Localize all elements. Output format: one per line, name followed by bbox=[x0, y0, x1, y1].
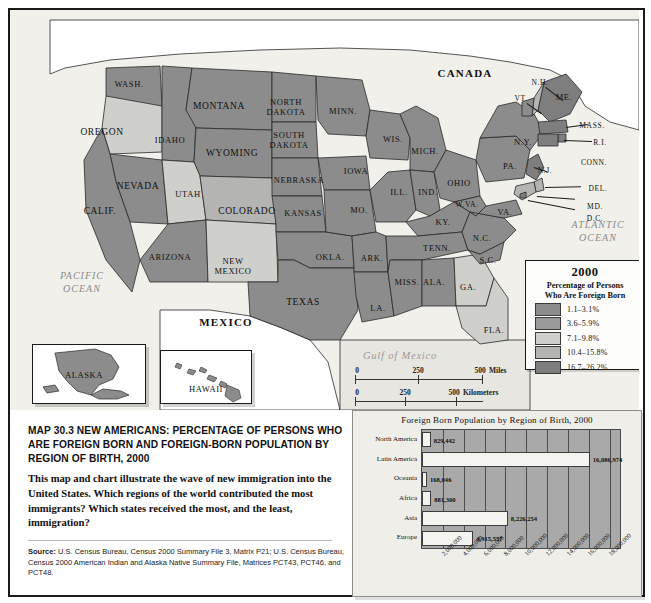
chart-bar bbox=[422, 452, 590, 467]
legend-entries: 1.1–3.1%3.6–5.9%7.1–9.8%10.4–15.8%16.7–2… bbox=[526, 303, 639, 374]
chart-bar-row: 8,226,254 bbox=[422, 511, 620, 526]
state-label-oregon: OREGON bbox=[80, 127, 123, 137]
legend-entry: 3.6–5.9% bbox=[535, 317, 639, 330]
state-label-conn: CONN. bbox=[581, 158, 607, 167]
legend-entry-label: 3.6–5.9% bbox=[567, 319, 599, 328]
state-label-ky: KY. bbox=[435, 217, 450, 227]
state-label-south-dakota: SOUTHDAKOTA bbox=[270, 130, 309, 150]
state-label-okla: OKLA. bbox=[316, 252, 345, 262]
state-label-d-c: D.C. bbox=[587, 214, 604, 223]
state-label-new-mexico: NEWMEXICO bbox=[214, 256, 251, 276]
inset-label-alaska: ALASKA bbox=[65, 370, 103, 380]
caption-divider bbox=[28, 540, 332, 541]
state-label-arizona: ARIZONA bbox=[149, 252, 191, 262]
chart-category-label: Asia bbox=[404, 514, 417, 522]
scale-tick bbox=[355, 375, 356, 384]
caption-block: MAP 30.3 NEW AMERICANS: PERCENTAGE OF PE… bbox=[28, 424, 344, 579]
state-label-del: DEL. bbox=[589, 184, 608, 193]
state-label-n-j: N.J. bbox=[538, 166, 553, 175]
state-label-n-y: N.Y. bbox=[514, 137, 532, 147]
state-label-me: ME. bbox=[556, 92, 573, 102]
map-caption-title: MAP 30.3 NEW AMERICANS: PERCENTAGE OF PE… bbox=[28, 424, 344, 465]
scale-label-500-miles: 500 bbox=[474, 366, 485, 375]
chart-category-label: North America bbox=[375, 435, 417, 443]
chart-title: Foreign Born Population by Region of Bir… bbox=[353, 415, 641, 425]
legend-entry-label: 1.1–3.1% bbox=[567, 305, 599, 314]
hawaii-geometry bbox=[161, 351, 251, 403]
state-label-n-c: N.C. bbox=[473, 233, 491, 243]
chart-bar-value: 8,226,254 bbox=[511, 515, 537, 522]
state-label-wyoming: WYOMING bbox=[206, 148, 258, 158]
scale-unit-kilometers: Kilometers bbox=[463, 388, 498, 397]
legend-subtitle-line1: Percentage of Persons bbox=[547, 281, 624, 290]
chart-bar-row: 881,300 bbox=[422, 491, 620, 506]
chart-bar bbox=[422, 491, 431, 506]
state-label-ga: GA. bbox=[460, 282, 476, 292]
legend-entry-label: 16.7–26.2% bbox=[567, 363, 608, 372]
chart-bar bbox=[422, 511, 508, 526]
state-label-utah: UTAH bbox=[175, 189, 200, 199]
water-label-gulf-of-mexico: Gulf of Mexico bbox=[363, 350, 437, 361]
legend-subtitle-line2: Who Are Foreign Born bbox=[545, 291, 625, 300]
state-label-ohio: OHIO bbox=[447, 178, 471, 188]
state-label-colorado: COLORADO bbox=[218, 206, 276, 216]
state-label-texas: TEXAS bbox=[286, 297, 320, 307]
state-label-n-h: N.H. bbox=[532, 78, 549, 87]
hawaii-inset bbox=[160, 350, 252, 404]
state-label-ark: ARK. bbox=[361, 253, 383, 263]
state-label-vt: VT. bbox=[514, 94, 527, 103]
scale-unit-miles: Miles bbox=[489, 366, 507, 375]
legend-entry-label: 10.4–15.8% bbox=[567, 348, 608, 357]
scale-bar-kilometers: 0 250 500 Kilometers bbox=[355, 390, 505, 410]
chart-category-label: Latin America bbox=[377, 455, 417, 463]
legend-entry-label: 7.1–9.8% bbox=[567, 334, 599, 343]
scale-label-250-miles: 250 bbox=[412, 366, 423, 375]
scale-tick bbox=[418, 375, 419, 384]
chart-bar-value: 829,442 bbox=[434, 436, 455, 443]
state-label-minn: MINN. bbox=[329, 106, 357, 116]
map-caption-body: This map and chart illustrate the wave o… bbox=[28, 472, 344, 530]
state-label-iowa: IOWA bbox=[344, 166, 369, 176]
chart-category-label: Oceania bbox=[394, 474, 417, 482]
chart-category-label: Africa bbox=[399, 494, 417, 502]
country-label-canada: CANADA bbox=[438, 67, 493, 79]
chart-bar-value: 16,086,974 bbox=[593, 456, 623, 463]
scale-tick bbox=[405, 397, 406, 406]
state-label-ind: IND. bbox=[418, 187, 438, 197]
state-label-wash: WASH. bbox=[114, 79, 143, 89]
state-label-ill: ILL. bbox=[390, 187, 408, 197]
chart-category-label: Europe bbox=[397, 533, 417, 541]
state-label-pa: PA. bbox=[503, 161, 517, 171]
chart-bar bbox=[422, 432, 431, 447]
state-label-mass: MASS. bbox=[579, 121, 604, 130]
scale-bar-miles: 0 250 500 Miles bbox=[355, 368, 505, 388]
legend-entry: 7.1–9.8% bbox=[535, 332, 639, 345]
legend-swatch bbox=[535, 346, 561, 359]
state-label-r-i: R.I. bbox=[593, 138, 607, 147]
legend-swatch bbox=[535, 303, 561, 316]
chart-bar-value: 881,300 bbox=[434, 495, 455, 502]
chart-plot-area: 829,44216,086,974168,046881,3008,226,254… bbox=[421, 429, 621, 549]
state-label-fla: FLA. bbox=[484, 325, 505, 335]
scale-tick bbox=[482, 375, 483, 384]
scale-label-500-km: 500 bbox=[448, 388, 459, 397]
legend-entry: 16.7–26.2% bbox=[535, 361, 639, 374]
legend-swatch bbox=[535, 317, 561, 330]
state-label-mo: MO. bbox=[350, 205, 368, 215]
chart-bar-value: 168,046 bbox=[430, 476, 451, 483]
state-label-la: LA. bbox=[370, 303, 385, 313]
scale-label-250-km: 250 bbox=[399, 388, 410, 397]
map-page: CANADAMEXICOPACIFICOCEANATLANTICOCEANGul… bbox=[0, 0, 651, 603]
source-text: U.S. Census Bureau, Census 2000 Summary … bbox=[28, 547, 344, 578]
inset-label-hawaii: HAWAII bbox=[189, 384, 223, 394]
map-panel: CANADAMEXICOPACIFICOCEANATLANTICOCEANGul… bbox=[10, 10, 639, 410]
state-label-s-c: S.C. bbox=[479, 255, 496, 265]
map-scale-bars: 0 250 500 Miles 0 250 500 Kilometers bbox=[355, 368, 505, 410]
state-label-tenn: TENN. bbox=[423, 243, 451, 253]
state-label-ala: ALA. bbox=[423, 277, 445, 287]
legend-entry: 10.4–15.8% bbox=[535, 346, 639, 359]
water-label-pacific-ocean: PACIFICOCEAN bbox=[60, 270, 104, 295]
state-label-w-va: W.VA. bbox=[455, 200, 478, 209]
scale-label-0-km: 0 bbox=[355, 388, 359, 397]
chart-bar-row: 16,086,974 bbox=[422, 452, 620, 467]
